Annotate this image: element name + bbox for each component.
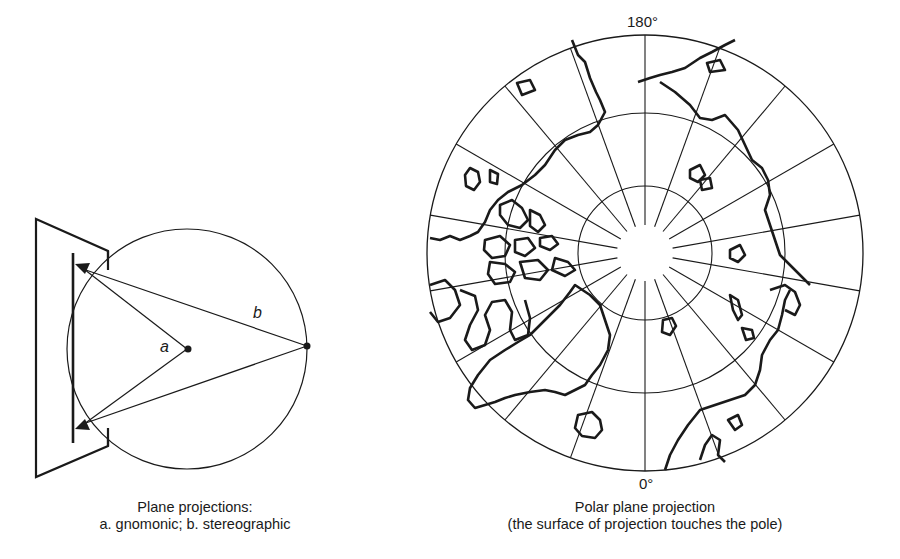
polar-projection-map [427,35,863,471]
diagram-canvas [0,0,900,559]
left-caption-title: Plane projections: [50,499,340,516]
plane-projection-diagram [36,219,311,477]
right-caption-subtitle: (the surface of projection touches the p… [460,516,830,533]
meridian-lines [430,35,859,471]
antipode-point [304,343,311,350]
label-b: b [253,304,262,322]
meridian-label-180: 180° [627,13,658,30]
left-caption: Plane projections: a. gnomonic; b. stere… [50,499,340,533]
right-caption-title: Polar plane projection [460,499,830,516]
coastlines [430,40,810,470]
right-caption: Polar plane projection (the surface of p… [460,499,830,533]
label-a: a [160,338,169,356]
meridian-label-0: 0° [639,475,653,492]
center-point [185,346,192,353]
left-caption-subtitle: a. gnomonic; b. stereographic [50,516,340,533]
